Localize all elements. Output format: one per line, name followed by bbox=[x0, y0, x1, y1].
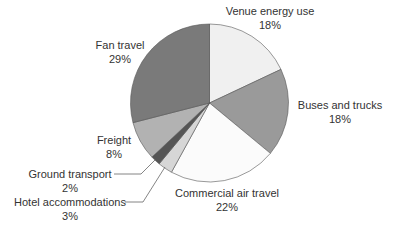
leader-line-ground-transport bbox=[114, 160, 155, 174]
label-buses-and-trucks: Buses and trucks18% bbox=[298, 98, 382, 126]
pie-slices bbox=[130, 24, 288, 182]
label-commercial-air-travel: Commercial air travel22% bbox=[175, 186, 279, 214]
leader-line-hotel-accommodations bbox=[125, 167, 165, 202]
label-freight: Freight8% bbox=[97, 133, 131, 161]
label-fan-travel: Fan travel29% bbox=[96, 38, 145, 66]
label-venue-energy-use: Venue energy use18% bbox=[226, 4, 315, 32]
label-hotel-accommodations: Hotel accommodations3% bbox=[14, 195, 126, 223]
label-ground-transport: Ground transport2% bbox=[28, 167, 111, 195]
